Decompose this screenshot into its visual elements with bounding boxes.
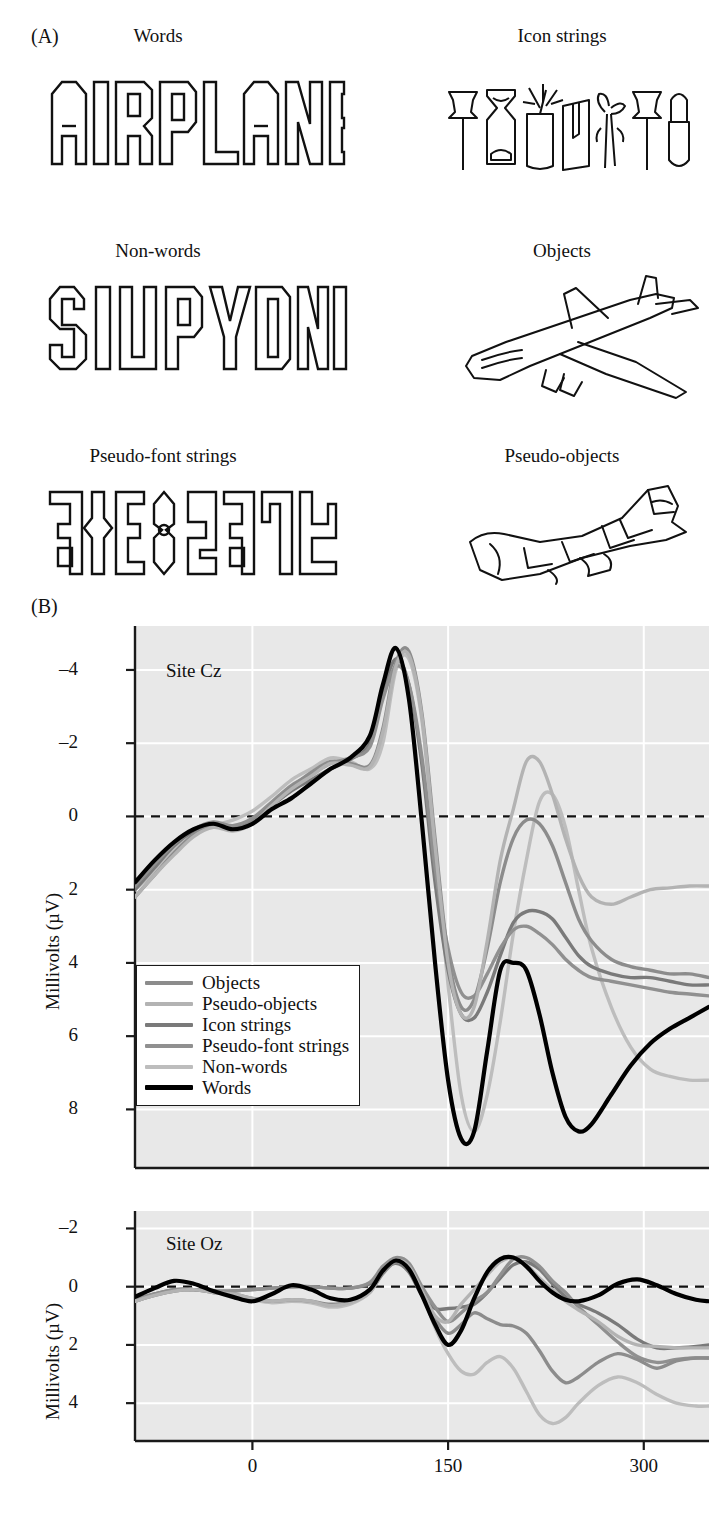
stimulus-title-words: Words: [58, 25, 258, 47]
legend-item: Non-words: [145, 1056, 349, 1077]
legend-swatch-non-words: [145, 1065, 193, 1069]
legend-label-non-words: Non-words: [202, 1057, 288, 1076]
stimulus-title-objects: Objects: [462, 240, 662, 262]
cz-ytick-0: –4: [40, 658, 78, 680]
cz-ytick-5: 6: [40, 1024, 78, 1046]
oz-ytick-2: 2: [40, 1333, 78, 1355]
stimulus-art-icon-strings: [443, 78, 693, 178]
cz-ytick-2: 0: [40, 804, 78, 826]
x-axis-tick-2: 300: [604, 1455, 684, 1477]
oz-ytick-0: –2: [40, 1216, 78, 1238]
oz-ytick-1: 0: [40, 1275, 78, 1297]
legend-swatch-words: [145, 1085, 193, 1090]
stimulus-title-non-words: Non-words: [58, 240, 258, 262]
panel-b-label: (B): [31, 595, 58, 618]
stimulus-title-pseudo-font-strings: Pseudo-font strings: [48, 445, 278, 467]
stimulus-art-non-words: [48, 283, 348, 373]
stimulus-art-words: [48, 78, 348, 168]
legend-swatch-objects: [145, 981, 193, 985]
cz-ytick-4: 4: [40, 951, 78, 973]
panel-a-label: (A): [31, 25, 59, 48]
cz-ytick-3: 2: [40, 878, 78, 900]
stimulus-title-pseudo-objects: Pseudo-objects: [462, 445, 662, 467]
legend-item: Pseudo-objects: [145, 993, 349, 1014]
legend-swatch-icon-strings: [145, 1023, 193, 1027]
cz-site-title: Site Cz: [166, 660, 221, 682]
cz-ytick-6: 8: [40, 1097, 78, 1119]
stimulus-title-icon-strings: Icon strings: [452, 25, 672, 47]
x-axis-tick-1: 150: [408, 1455, 488, 1477]
legend-label-pseudo-objects: Pseudo-objects: [202, 994, 317, 1013]
legend-item: Icon strings: [145, 1014, 349, 1035]
legend-swatch-pseudo-objects: [145, 1002, 193, 1006]
oz-ytick-3: 4: [40, 1391, 78, 1413]
oz-site-title: Site Oz: [166, 1233, 222, 1255]
chart-legend: Objects Pseudo-objects Icon strings Pseu…: [136, 965, 360, 1106]
stimulus-art-objects: [460, 270, 700, 405]
cz-ytick-1: –2: [40, 731, 78, 753]
legend-item: Words: [145, 1077, 349, 1098]
stimulus-art-pseudo-objects: [462, 478, 692, 588]
legend-item: Objects: [145, 972, 349, 993]
x-axis-tick-0: 0: [212, 1455, 292, 1477]
legend-label-words: Words: [202, 1078, 251, 1097]
stimulus-art-pseudo-font-strings: [48, 488, 338, 578]
legend-swatch-pseudo-font-strings: [145, 1044, 193, 1048]
legend-label-pseudo-font-strings: Pseudo-font strings: [202, 1036, 349, 1055]
legend-label-objects: Objects: [202, 973, 260, 992]
legend-item: Pseudo-font strings: [145, 1035, 349, 1056]
legend-label-icon-strings: Icon strings: [202, 1015, 291, 1034]
